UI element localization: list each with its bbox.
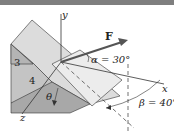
y-axis-label: y [61,9,68,20]
beta-label: β = 40° [138,97,174,108]
beta-arrowhead [106,105,111,110]
dimension-rise: 3 [14,57,20,68]
x-axis-label: x [162,83,168,94]
force-label: F [105,30,113,43]
alpha-label: α = 30° [91,54,130,65]
z-axis-label: z [19,112,26,123]
wedge-diagram: y x z F α = 30° β = 40° θ 3 4 [0,0,174,138]
dimension-run: 4 [29,75,35,86]
force-arrowhead [118,38,128,46]
theta-label: θ [46,91,52,102]
